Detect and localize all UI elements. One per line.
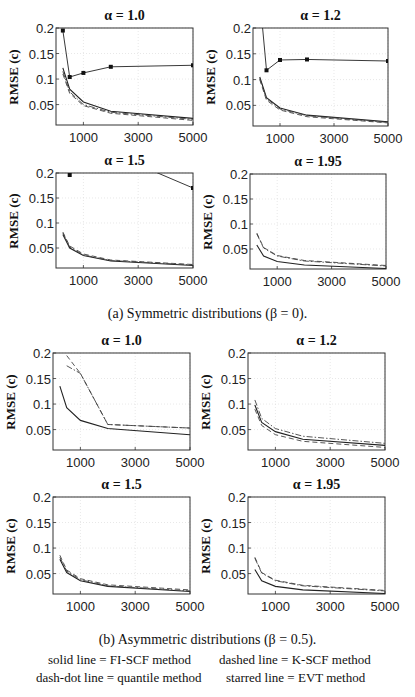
caption-symmetric: (a) Symmetric distributions (β = 0). (0, 306, 415, 322)
y-tick-label: 0.1 (228, 541, 246, 556)
y-tick-label: 0.2 (228, 490, 246, 505)
legend-dashed: dashed line = K-SCF method (219, 652, 371, 668)
legend-dashdot: dash-dot line = quantile method (36, 670, 201, 686)
legend-starred: starred line = EVT method (226, 670, 365, 686)
panel-title: α = 1.95 (248, 477, 385, 493)
series-fi-scf (255, 569, 385, 593)
caption-asymmetric: (b) Asymmetric distributions (β = 0.5). (0, 632, 415, 648)
y-tick-label: 0.15 (221, 516, 246, 531)
y-tick-label: 0.05 (221, 567, 246, 582)
chart-panel-b-alpha-1-95: 0.20.150.10.05100030005000α = 1.95RMSE (… (0, 0, 415, 697)
chart-svg: 0.20.150.10.05100030005000 (0, 0, 415, 697)
x-tick-label: 5000 (371, 599, 400, 614)
legend-solid: solid line = FI-SCF method (48, 652, 191, 668)
x-tick-label: 1000 (261, 599, 290, 614)
axes-box (248, 497, 385, 594)
y-axis-label: RMSE (c) (198, 506, 214, 586)
grid-lines (248, 497, 385, 594)
x-tick-label: 3000 (316, 599, 345, 614)
